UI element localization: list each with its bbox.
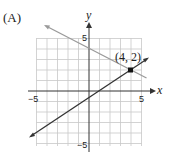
x-tick-neg5: −5: [28, 94, 38, 104]
x-axis-arrow-icon: [150, 88, 156, 94]
point-label: (4, 2): [115, 50, 141, 65]
y-tick-neg5: −5: [77, 140, 87, 150]
panel-label: (A): [3, 10, 21, 26]
intersection-point: [128, 68, 133, 73]
x-tick-pos5: 5: [139, 94, 144, 104]
coordinate-plane: [0, 0, 174, 160]
y-tick-pos5: 5: [82, 33, 87, 43]
gray-line-arrow-icon: [44, 25, 50, 30]
x-axis-label: x: [157, 83, 162, 98]
y-axis-label: y: [86, 8, 91, 23]
